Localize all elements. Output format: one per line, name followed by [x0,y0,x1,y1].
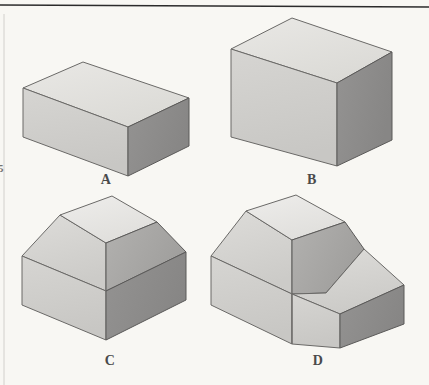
figure-label-b: B [300,172,324,188]
figure-d-stepped-barn-block [211,195,404,348]
figure-label-c: C [98,353,122,369]
figure-label-d: D [306,353,330,369]
figures-illustration [0,0,429,385]
left-margin-mark: 5 [0,162,4,174]
figure-page: A B C D 5 [0,0,429,385]
figure-b-tall-block [231,18,392,166]
figure-a-rectangular-block [23,62,189,176]
top-horizontal-rule [0,5,429,7]
figure-c-barn-shaped-block [22,196,186,340]
figure-label-a: A [94,172,118,188]
